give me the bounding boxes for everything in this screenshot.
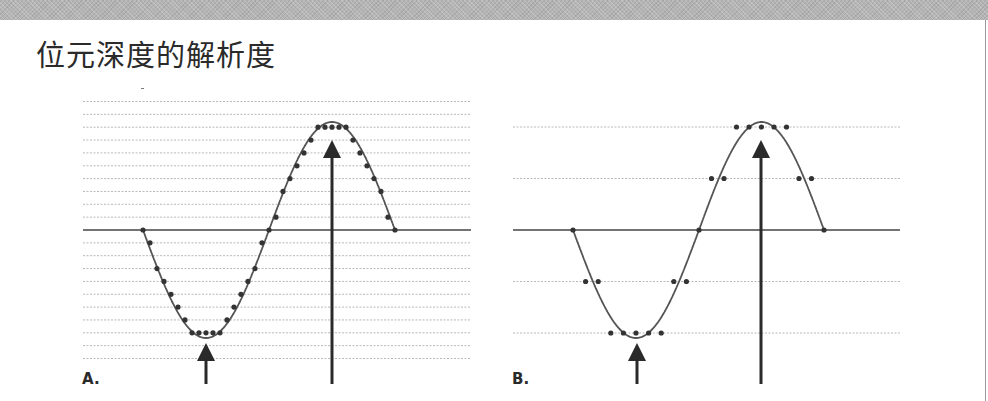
sample-point [392, 227, 397, 232]
sample-point [308, 138, 313, 143]
sample-point [210, 330, 215, 335]
sample-point [336, 125, 341, 130]
sample-point [154, 266, 159, 271]
sample-point [322, 125, 327, 130]
sample-point [231, 305, 236, 310]
sample-point [224, 317, 229, 322]
sample-point [696, 227, 701, 232]
sample-point [633, 330, 638, 335]
sample-point [385, 215, 390, 220]
sample-point [364, 163, 369, 168]
sample-point [659, 330, 664, 335]
up-arrow-icon [323, 140, 341, 158]
sample-point [238, 292, 243, 297]
sample-point [189, 330, 194, 335]
panel-b-label: B. [512, 370, 529, 388]
sample-point [315, 125, 320, 130]
sample-point [266, 227, 271, 232]
sample-point [329, 125, 334, 130]
sample-point [287, 176, 292, 181]
sample-point [175, 305, 180, 310]
sample-point [378, 189, 383, 194]
sample-point [570, 227, 575, 232]
sample-point [168, 292, 173, 297]
sample-point [280, 189, 285, 194]
sample-point [684, 279, 689, 284]
sample-point [245, 279, 250, 284]
bit-depth-diagram [0, 0, 988, 401]
sample-point [161, 279, 166, 284]
sample-point [596, 279, 601, 284]
sample-point [809, 176, 814, 181]
sample-point [796, 176, 801, 181]
panel-a-diagram [83, 102, 471, 385]
sample-point [273, 215, 278, 220]
sample-point [371, 176, 376, 181]
sample-point [301, 150, 306, 155]
sample-point [350, 138, 355, 143]
sample-point [709, 176, 714, 181]
sample-point [252, 266, 257, 271]
panel-a-label: A. [82, 370, 100, 388]
sample-point [343, 125, 348, 130]
sample-point [196, 330, 201, 335]
sample-point [608, 330, 613, 335]
sample-point [621, 330, 626, 335]
up-arrow-icon [628, 343, 646, 361]
sample-point [357, 150, 362, 155]
sample-point [759, 124, 764, 129]
sample-point [821, 227, 826, 232]
sample-point [203, 330, 208, 335]
sample-point [140, 227, 145, 232]
sample-point [182, 317, 187, 322]
sample-point [294, 163, 299, 168]
sample-point [746, 124, 751, 129]
sample-point [721, 176, 726, 181]
sample-point [771, 124, 776, 129]
sample-point [147, 240, 152, 245]
sample-point [217, 330, 222, 335]
sample-point [671, 279, 676, 284]
sample-point [784, 124, 789, 129]
sample-point [646, 330, 651, 335]
up-arrow-icon [752, 140, 770, 158]
panel-b-diagram [513, 122, 900, 384]
sample-point [583, 279, 588, 284]
sample-point [734, 124, 739, 129]
sample-point [259, 240, 264, 245]
